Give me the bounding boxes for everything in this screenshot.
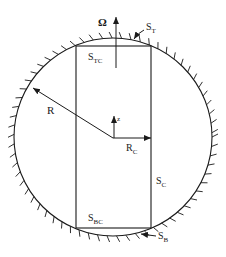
label-s-tc: STC [88, 51, 103, 65]
diagram-canvas: Ω ST STC R z RC SC SBC SB [0, 0, 226, 257]
wall-hatching [8, 32, 218, 242]
radius-arrow [33, 88, 113, 138]
omega-label: Ω [98, 16, 107, 28]
label-s-c: SC [156, 175, 167, 189]
label-z: z [117, 115, 120, 123]
label-r-c: RC [126, 142, 138, 156]
label-s-t: ST [146, 21, 157, 35]
label-r: R [47, 104, 55, 116]
sphere-boundary [8, 32, 218, 242]
label-s-b: SB [158, 230, 169, 244]
label-s-bc: SBC [88, 212, 103, 226]
s-t-pointer-arrow [134, 30, 144, 39]
